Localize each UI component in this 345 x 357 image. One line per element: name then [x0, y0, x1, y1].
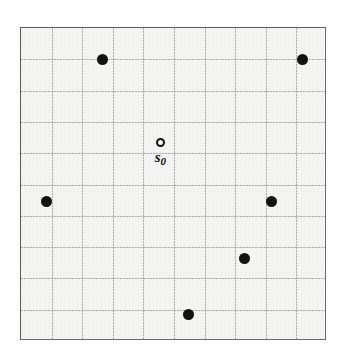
figure-container: s0 [0, 0, 345, 357]
paper-texture [21, 28, 325, 339]
grid-line-vertical [296, 28, 297, 339]
point-label-s0: s0 [155, 150, 166, 165]
grid-line-vertical [82, 28, 83, 339]
event-point-marker [41, 196, 52, 207]
event-point-marker [183, 309, 194, 320]
grid-line-horizontal [21, 153, 325, 154]
grid-line-horizontal [21, 216, 325, 217]
grid-line-horizontal [21, 122, 325, 123]
grid-lines [21, 28, 325, 339]
event-point-marker [97, 54, 108, 65]
point-label-symbol: s [155, 149, 161, 165]
point-label-subscript: 0 [160, 155, 165, 167]
grid-line-horizontal [21, 310, 325, 311]
grid-line-vertical [52, 28, 53, 339]
grid-line-vertical [174, 28, 175, 339]
reference-point-marker [156, 138, 165, 147]
event-point-marker [297, 54, 308, 65]
grid-line-vertical [143, 28, 144, 339]
grid-line-vertical [235, 28, 236, 339]
grid-line-vertical [266, 28, 267, 339]
grid-line-vertical [113, 28, 114, 339]
grid-line-horizontal [21, 91, 325, 92]
grid-line-vertical [205, 28, 206, 339]
grid-line-horizontal [21, 185, 325, 186]
event-point-marker [239, 253, 250, 264]
event-point-marker [266, 196, 277, 207]
grid-line-horizontal [21, 247, 325, 248]
grid-line-horizontal [21, 59, 325, 60]
grid-line-horizontal [21, 278, 325, 279]
plot-area: s0 [20, 27, 326, 340]
